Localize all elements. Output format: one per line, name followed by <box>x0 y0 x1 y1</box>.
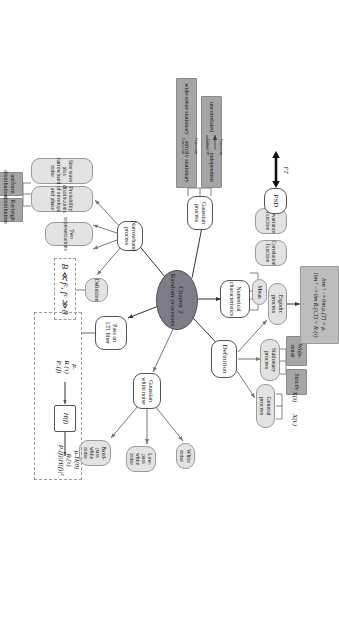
label-general-process-var-1: X(t) <box>291 386 299 408</box>
center-node-chapter[interactable]: Chapter 2 Random processes <box>156 270 198 330</box>
center-node-line1: Chapter 2 <box>177 274 185 326</box>
lti-input-psd: Pₓ(f) <box>55 350 63 384</box>
formula-lim-2: lim <box>312 272 320 281</box>
node-low-pass-white-noise[interactable]: Low-pass white noise <box>126 446 156 472</box>
node-numerical-characteristics[interactable]: Numerical characteristics <box>220 280 250 318</box>
node-rayleigh-distribution[interactable]: Rayleigh distribution <box>0 198 23 222</box>
node-white-noise[interactable]: White noise <box>176 443 195 469</box>
node-sine-wave-plus-narrowband-noise[interactable]: Sine wave plus narrowband noise <box>31 158 93 184</box>
node-two-representations[interactable]: Two representations <box>45 222 93 246</box>
relation-stationary-forward-label: Gaussian <box>194 138 199 154</box>
center-node-line2: Random processes <box>169 274 177 326</box>
formula-lim-1: lim <box>320 278 328 287</box>
node-definition[interactable]: Definition <box>211 340 237 378</box>
relation-stationary-left: wide-sense stationary <box>183 83 190 135</box>
relation-correlation-forward-label: Gaussian <box>219 139 224 155</box>
lti-input-autocorr: Rₓ(τ) <box>63 350 71 384</box>
relation-correlation: uncorrelated Gaussian Gaussian independe… <box>201 96 222 188</box>
lti-output-mean: μₓH(0) <box>73 440 81 480</box>
node-stationary-process[interactable]: Stationary process <box>260 339 280 381</box>
lti-input-signals: μₓ Rₓ(τ) Pₓ(f) <box>55 350 79 384</box>
node-gaussian-process[interactable]: Gaussian process <box>187 196 213 230</box>
node-narrowband-definition[interactable]: Definition <box>85 278 108 302</box>
formula-line1: lim μₓ(T) = μₓ <box>320 299 327 332</box>
lti-output-signals: μₓH(0) Rᵧ(τ) Pₓ(f)|H(f)|² <box>57 440 81 480</box>
lti-output-psd: Pₓ(f)|H(f)|² <box>57 440 65 480</box>
formula-line2: lim Rₓ(τ,T) = Rₓ(τ) <box>312 294 319 338</box>
node-psd[interactable]: PSD <box>264 188 287 214</box>
relation-correlation-left: uncorrelated <box>208 102 215 132</box>
node-pass-lti-filter[interactable]: Pass an LTI filter <box>95 316 127 350</box>
lti-input-mean: μₓ <box>71 350 79 384</box>
narrowband-definition-condition: B ≪ fᶜ, fᶜ ≫ 0 <box>54 258 76 320</box>
node-mean[interactable]: Mean <box>252 279 267 305</box>
label-general-process-var-2: X(tᵢ) <box>291 408 299 432</box>
node-narrowband-process[interactable]: Narrowband process <box>117 221 143 251</box>
node-ergodic-process[interactable]: Ergodic process <box>268 283 287 325</box>
node-correlation-function[interactable]: Correlation function <box>255 240 287 266</box>
relation-stationary-back-label: Gaussian <box>181 138 186 154</box>
node-uniform-distribution[interactable]: uniform distribution <box>0 172 23 196</box>
relation-correlation-back-label: Gaussian <box>206 139 211 155</box>
label-fourier-transform: FT <box>282 161 289 179</box>
lti-transfer-block: H(f) <box>54 405 76 432</box>
formula-ergodic-limits: lim T→∞ lim μₓ(T) = μₓ lim T→∞ lim Rₓ(τ,… <box>300 266 339 344</box>
node-band-pass-white-noise[interactable]: Band-pass white noise <box>79 440 111 466</box>
node-probability-distributions[interactable]: Probability distributions of envelope an… <box>31 186 93 212</box>
formula-lim-1-sub: T→∞ <box>321 288 326 298</box>
relation-stationary: wide-sense stationary Gaussian Gaussian … <box>176 78 197 188</box>
lti-output-autocorr: Rᵧ(τ) <box>65 440 73 480</box>
relation-correlation-right: independent <box>208 153 215 182</box>
node-gaussian-white-noise[interactable]: Gaussian white noise <box>133 373 161 409</box>
node-general-process[interactable]: General process <box>256 384 275 428</box>
formula-lim-2-sub: T→∞ <box>313 282 318 292</box>
